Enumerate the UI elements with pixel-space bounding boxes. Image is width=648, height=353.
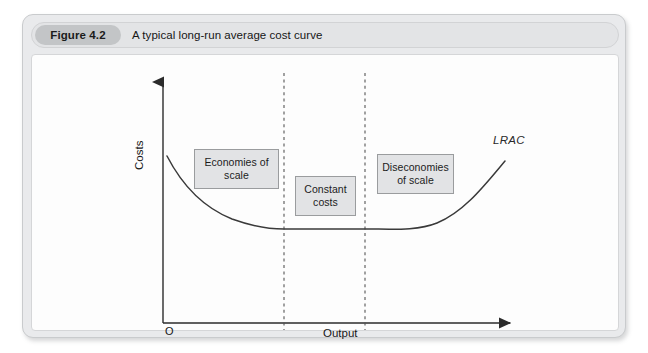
annotation-diseconomies-of-scale: Diseconomies of scale bbox=[377, 154, 454, 194]
figure-caption: A typical long-run average cost curve bbox=[132, 23, 322, 47]
annotation-economies-line2: scale bbox=[224, 169, 249, 181]
annotation-economies-of-scale: Economies of scale bbox=[194, 149, 279, 189]
lrac-curve-label: LRAC bbox=[493, 134, 525, 146]
figure-header: Figure 4.2 A typical long-run average co… bbox=[31, 22, 619, 48]
figure-panel: Figure 4.2 A typical long-run average co… bbox=[22, 14, 626, 338]
annotation-constant-costs: Constant costs bbox=[295, 176, 356, 216]
annotation-constant-line1: Constant bbox=[304, 183, 346, 195]
origin-label: O bbox=[165, 325, 174, 337]
figure-number-badge: Figure 4.2 bbox=[35, 25, 121, 45]
x-axis-label: Output bbox=[323, 327, 358, 339]
annotation-diseconomies-line2: of scale bbox=[397, 174, 434, 186]
chart-plot-area: Economies of scale Constant costs Diseco… bbox=[31, 54, 619, 331]
figure-screenshot: Figure 4.2 A typical long-run average co… bbox=[0, 0, 648, 353]
annotation-economies-line1: Economies of bbox=[204, 156, 268, 168]
annotation-diseconomies-line1: Diseconomies bbox=[382, 161, 449, 173]
y-axis-label: Costs bbox=[133, 141, 145, 170]
annotation-constant-line2: costs bbox=[313, 196, 338, 208]
